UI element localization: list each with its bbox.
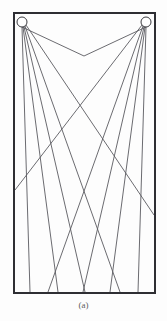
- source-nodes-layer: [17, 17, 151, 27]
- ray-line: [83, 27, 144, 292]
- ray-line: [22, 27, 84, 56]
- ray-line: [22, 27, 30, 292]
- source-right-node: [141, 17, 151, 27]
- rays-layer: [15, 25, 154, 292]
- figure-caption: (a): [0, 300, 167, 310]
- ray-line: [48, 26, 143, 292]
- ray-line: [138, 27, 146, 292]
- figure-container: (a): [0, 0, 167, 321]
- ray-diagram: [0, 0, 167, 300]
- source-left-node: [17, 17, 27, 27]
- ray-line: [23, 27, 58, 292]
- ray-line: [110, 27, 145, 292]
